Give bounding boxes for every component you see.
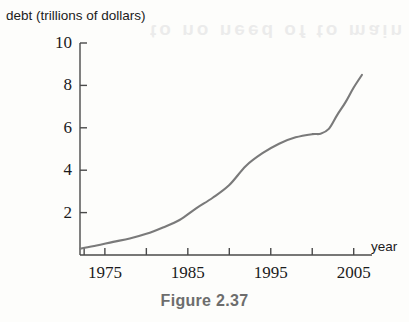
- x-tick-label: 2005: [324, 263, 384, 283]
- x-tick-label: 1975: [75, 263, 135, 283]
- figure-caption: Figure 2.37: [0, 292, 409, 310]
- x-tick-label: 1985: [158, 263, 218, 283]
- debt-curve: [80, 75, 362, 249]
- x-tick-label: 1995: [241, 263, 301, 283]
- chart-tick-marks: [80, 43, 354, 255]
- y-tick-label: 10: [38, 33, 72, 53]
- figure-page: to no need of to main debt (trillions of…: [0, 0, 409, 322]
- y-tick-label: 6: [38, 118, 72, 138]
- y-tick-label: 2: [38, 203, 72, 223]
- chart-axes: [80, 43, 372, 255]
- y-tick-label: 8: [38, 75, 72, 95]
- y-tick-label: 4: [38, 160, 72, 180]
